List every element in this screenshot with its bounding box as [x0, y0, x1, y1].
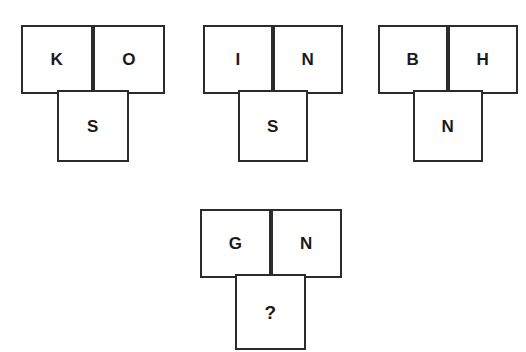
cell-letter: N [300, 235, 313, 252]
cell-letter: S [87, 118, 99, 135]
cell-letter: N [442, 118, 455, 135]
cell-top-left[interactable]: B [378, 25, 448, 94]
puzzle-canvas: K O S I N S B H N G [0, 0, 526, 352]
cell-letter: O [122, 51, 136, 68]
cell-letter: G [229, 235, 243, 252]
cell-letter: N [302, 51, 315, 68]
cell-top-right[interactable]: N [271, 209, 342, 278]
cell-top-right[interactable]: H [448, 25, 518, 94]
cell-top-right[interactable]: O [93, 25, 165, 94]
cell-letter: S [267, 118, 279, 135]
cell-letter: B [407, 51, 420, 68]
cell-bottom[interactable]: N [413, 90, 483, 162]
cell-bottom-unknown[interactable]: ? [235, 274, 306, 350]
cell-top-left[interactable]: K [21, 25, 93, 94]
question-mark-label: ? [264, 303, 276, 322]
cell-top-left[interactable]: G [200, 209, 271, 278]
cell-letter: K [51, 51, 64, 68]
cell-top-right[interactable]: N [273, 25, 343, 94]
cell-bottom[interactable]: S [57, 90, 129, 162]
cell-letter: H [477, 51, 490, 68]
cell-top-left[interactable]: I [203, 25, 273, 94]
cell-letter: I [235, 51, 240, 68]
cell-bottom[interactable]: S [238, 90, 308, 162]
